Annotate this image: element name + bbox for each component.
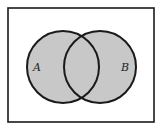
set-b-label: B	[120, 61, 129, 74]
venn-diagram: A B	[0, 0, 161, 135]
set-a-label: A	[32, 61, 41, 74]
